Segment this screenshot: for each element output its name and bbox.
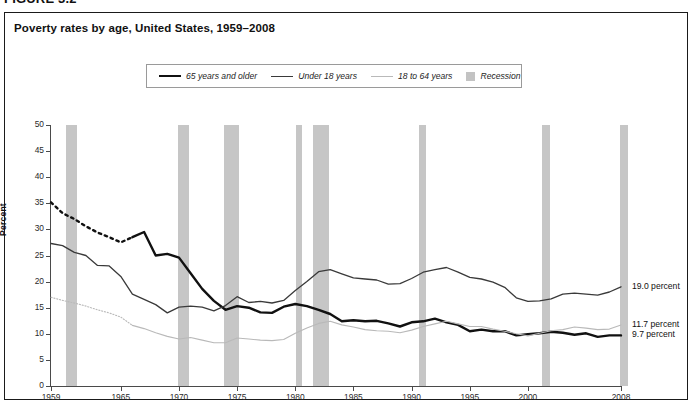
series-line-2	[132, 321, 621, 342]
figure-container: FIGURE 3.2 Poverty rates by age, United …	[0, 0, 693, 416]
series-line-2	[51, 297, 132, 325]
series-lines	[0, 0, 693, 416]
annotation-label: 11.7 percent	[632, 319, 679, 329]
series-line-1	[51, 244, 621, 313]
annotation-label: 9.7 percent	[632, 329, 675, 339]
series-line-0	[132, 232, 621, 337]
series-line-0	[51, 202, 132, 242]
annotation-label: 19.0 percent	[632, 281, 680, 291]
